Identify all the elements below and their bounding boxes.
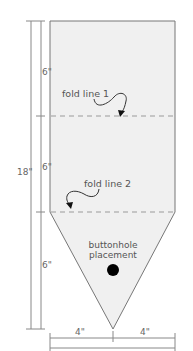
buttonhole-label-line1: buttonhole <box>89 240 138 250</box>
buttonhole-dot-icon <box>107 264 119 276</box>
total-height-label: 18" <box>17 167 33 177</box>
section-3-height-label: 6" <box>42 260 52 270</box>
right-half-width-label: 4" <box>140 327 150 337</box>
section-1-height-label: 6" <box>42 67 52 77</box>
pattern-diagram: fold line 1 fold line 2 buttonhole place… <box>0 0 193 351</box>
pattern-piece-outline <box>50 21 175 329</box>
fold-line-2-label: fold line 2 <box>84 178 131 189</box>
left-half-width-label: 4" <box>75 327 85 337</box>
buttonhole-label-line2: placement <box>89 250 137 260</box>
section-2-height-label: 6" <box>42 162 52 172</box>
fold-line-1-label: fold line 1 <box>62 88 109 99</box>
